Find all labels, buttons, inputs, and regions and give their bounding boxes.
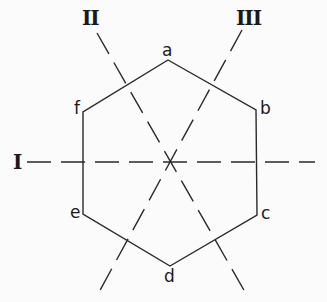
axis-label-III: III: [236, 8, 261, 28]
vertex-label-d: d: [164, 268, 175, 285]
axis-label-I: I: [13, 152, 21, 172]
vertex-label-e: e: [70, 204, 80, 221]
hexagon-diagram: a b c d e f I II III: [0, 0, 327, 302]
axis-label-II: II: [82, 8, 99, 28]
vertex-label-f: f: [74, 100, 80, 117]
vertex-label-c: c: [261, 205, 270, 222]
symmetry-axis-II: [97, 33, 245, 292]
vertex-label-a: a: [162, 42, 172, 59]
vertex-label-b: b: [260, 100, 271, 117]
